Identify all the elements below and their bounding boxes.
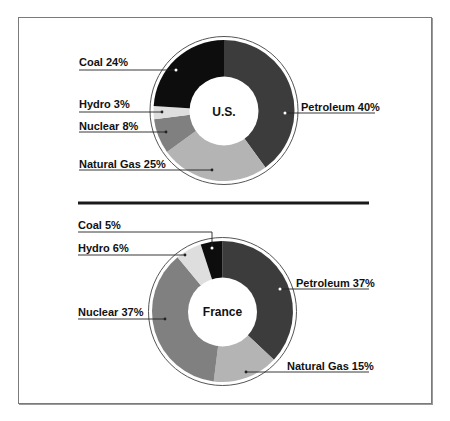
france-center-label: France [203,305,243,319]
chart-canvas: U.S. Coal 24% Hydro 3% Nuclear 8% Natura… [0,0,450,421]
us-center-label: U.S. [212,105,235,119]
section-divider [78,202,369,205]
us-hydro-label: Hydro 3% [79,98,130,110]
france-petroleum-label: Petroleum 37% [296,277,375,289]
us-nuclear-label: Nuclear 8% [79,120,139,132]
france-nuclear-label: Nuclear 37% [78,306,144,318]
france-natural-gas-label: Natural Gas 15% [287,360,374,372]
us-petroleum-label: Petroleum 40% [301,101,380,113]
france-donut-chart: France [149,238,297,386]
us-natural-gas-label: Natural Gas 25% [79,158,166,170]
us-label-nuclear: Nuclear 8% [79,120,167,133]
france-hydro-label: Hydro 6% [78,242,129,254]
us-donut-chart: U.S. [150,37,298,185]
france-coal-label: Coal 5% [78,219,121,231]
us-coal-label: Coal 24% [79,56,128,68]
chart-figure: U.S. Coal 24% Hydro 3% Nuclear 8% Natura… [0,0,450,421]
france-label-hydro: Hydro 6% [78,242,186,256]
